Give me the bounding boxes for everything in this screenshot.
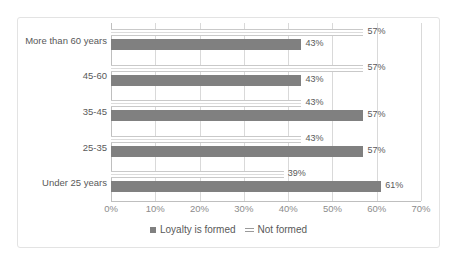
x-tick-label: 10%: [146, 204, 165, 214]
bar-not-formed: [111, 171, 284, 178]
x-tick-label: 0%: [104, 204, 118, 214]
bar-group: 43%57%: [111, 130, 421, 166]
x-tick-label: 30%: [234, 204, 253, 214]
bar-value-label: 57%: [367, 146, 385, 155]
x-axis-ticks: 0%10%20%30%40%50%60%70%: [111, 204, 421, 220]
x-tick-label: 50%: [323, 204, 342, 214]
bar-loyalty-is-formed: [111, 146, 363, 157]
legend-entry[interactable]: Loyalty is formed: [150, 224, 236, 235]
category-label: 35-45: [83, 107, 107, 117]
solid-square-icon: [150, 227, 156, 233]
chart-container: Under 25 years25-3535-4545-60More than 6…: [17, 17, 440, 248]
bar-value-label: 43%: [305, 75, 323, 84]
bar-group: 57%43%: [111, 23, 421, 59]
bar-value-label: 43%: [305, 39, 323, 48]
bar-value-label: 57%: [367, 27, 385, 36]
gridline-70%: [421, 23, 422, 201]
bar-loyalty-is-formed: [111, 181, 381, 192]
legend-entry[interactable]: Not formed: [245, 224, 307, 235]
category-label: Under 25 years: [42, 178, 107, 188]
bar-not-formed: [111, 29, 363, 36]
bar-group: 39%61%: [111, 165, 421, 201]
category-axis: Under 25 years25-3535-4545-60More than 6…: [18, 23, 111, 201]
bar-value-label: 57%: [367, 110, 385, 119]
bar-not-formed: [111, 100, 301, 107]
category-label: 25-35: [83, 143, 107, 153]
x-tick-label: 20%: [190, 204, 209, 214]
legend-label: Not formed: [258, 224, 307, 235]
bar-loyalty-is-formed: [111, 39, 301, 50]
bar-loyalty-is-formed: [111, 75, 301, 86]
bar-value-label: 39%: [288, 169, 306, 178]
x-axis-line: [111, 201, 421, 202]
chart-legend: Loyalty is formedNot formed: [18, 224, 439, 235]
bar-loyalty-is-formed: [111, 110, 363, 121]
bar-group: 57%43%: [111, 59, 421, 95]
x-tick-label: 60%: [367, 204, 386, 214]
bar-value-label: 43%: [305, 134, 323, 143]
legend-label: Loyalty is formed: [160, 224, 236, 235]
category-label: 45-60: [83, 71, 107, 81]
category-label: More than 60 years: [25, 36, 107, 46]
x-tick-label: 70%: [411, 204, 430, 214]
x-tick-label: 40%: [279, 204, 298, 214]
double-line-icon: [245, 227, 254, 233]
bar-value-label: 43%: [305, 98, 323, 107]
plot-area: 39%61%43%57%43%57%57%43%57%43%: [111, 23, 421, 201]
bar-group: 43%57%: [111, 94, 421, 130]
bar-not-formed: [111, 136, 301, 143]
bar-value-label: 57%: [367, 63, 385, 72]
bar-value-label: 61%: [385, 181, 403, 190]
bar-not-formed: [111, 65, 363, 72]
